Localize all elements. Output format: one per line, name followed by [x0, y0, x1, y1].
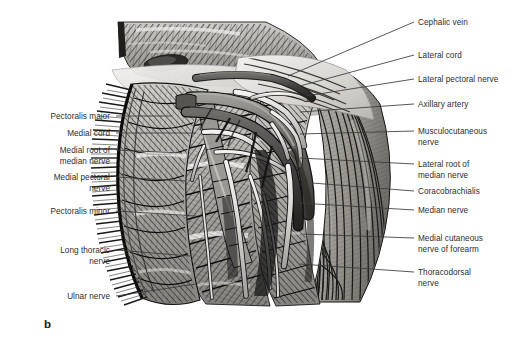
label-musculocutaneous-nerve: Musculocutaneous nerve — [418, 127, 522, 148]
label-axillary-artery: Axillary artery — [418, 100, 522, 111]
label-lateral-root-of-median-nerve: Lateral root of median nerve — [418, 160, 522, 181]
label-medial-pectoral-nerve: Medial pectoral nerve — [0, 173, 110, 194]
label-thoracodorsal-nerve: Thoracodorsal nerve — [418, 268, 522, 289]
label-long-thoracic-nerve: Long thoracic nerve — [0, 246, 110, 267]
label-coracobrachialis: Coracobrachialis — [418, 187, 522, 198]
label-lateral-pectoral-nerve: Lateral pectoral nerve — [418, 75, 522, 86]
label-cephalic-vein: Cephalic vein — [418, 18, 522, 29]
label-medial-root-of-median-nerve: Medial root of median nerve — [0, 146, 110, 167]
label-medial-cord: Medial cord — [0, 129, 110, 140]
anatomical-figure: Pectoralis majorMedial cordMedial root o… — [0, 0, 522, 342]
label-lateral-cord: Lateral cord — [418, 51, 522, 62]
label-ulnar-nerve: Ulnar nerve — [0, 292, 110, 303]
panel-letter: b — [44, 318, 51, 330]
label-medial-cutaneous-nerve-of-forearm: Medial cutaneous nerve of forearm — [418, 234, 522, 255]
label-pectoralis-major: Pectoralis major — [0, 112, 110, 123]
label-median-nerve: Median nerve — [418, 206, 522, 217]
label-pectoralis-minor: Pectoralis minor — [0, 207, 110, 218]
